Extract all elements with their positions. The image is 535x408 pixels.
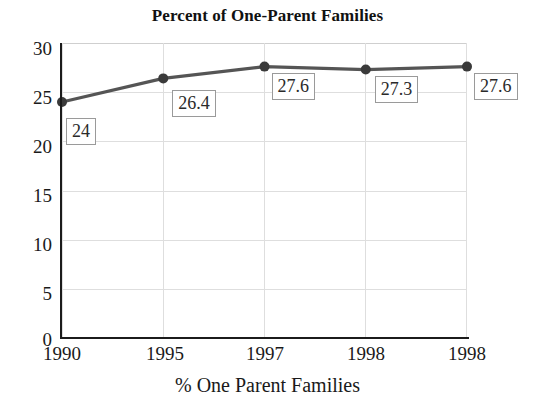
y-tick-label: 10 [6, 235, 52, 254]
x-tick-label: 1998 [407, 344, 527, 363]
y-tick-label: 15 [6, 186, 52, 205]
data-point-marker [158, 73, 168, 83]
line-chart: Percent of One-Parent Families 30 25 20 … [0, 0, 535, 408]
data-point-marker [57, 97, 67, 107]
x-axis-line [60, 337, 469, 339]
data-point-label: 27.6 [272, 73, 316, 100]
data-point-marker [260, 62, 270, 72]
y-axis-line [60, 43, 62, 339]
plot-area: 24 26.4 27.6 27.3 27.6 [62, 43, 467, 338]
y-tick-label: 25 [6, 88, 52, 107]
data-point-label: 24 [66, 118, 96, 145]
data-point-marker [462, 62, 472, 72]
y-tick-label: 20 [6, 137, 52, 156]
data-point-marker [361, 65, 371, 75]
y-tick-label: 5 [6, 284, 52, 303]
data-point-label: 26.4 [172, 90, 216, 117]
y-tick-label: 30 [6, 39, 52, 58]
x-axis-caption: % One Parent Families [0, 374, 535, 397]
data-point-label: 27.6 [474, 73, 518, 100]
data-point-label: 27.3 [375, 76, 419, 103]
chart-title: Percent of One-Parent Families [0, 6, 535, 26]
x-tick-label: 1990 [2, 344, 122, 363]
